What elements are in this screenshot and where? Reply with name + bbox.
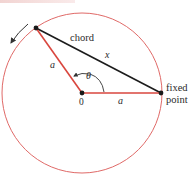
- fixed-point: [159, 91, 164, 96]
- center-point: [80, 91, 85, 96]
- fixed-point-label-line2: point: [166, 94, 188, 105]
- circle-chord-diagram: chord x a θ 0 a fixed point: [0, 0, 192, 177]
- fixed-point-label-line1: fixed: [166, 82, 188, 93]
- radius-label-bottom: a: [118, 95, 123, 106]
- moving-point: [34, 26, 39, 31]
- radius-label-left: a: [50, 59, 55, 70]
- chord-length-label: x: [104, 49, 110, 60]
- angle-label: θ: [86, 70, 91, 81]
- rotation-arrow-icon: [11, 24, 28, 43]
- center-label: 0: [79, 97, 84, 107]
- chord-label: chord: [70, 32, 95, 43]
